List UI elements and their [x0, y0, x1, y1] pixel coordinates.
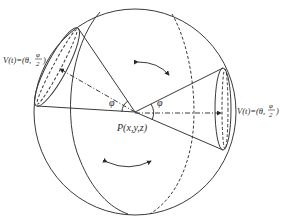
rotation-arrow-top — [138, 62, 169, 75]
svg-text:V(t)=(θ,: V(t)=(θ, — [237, 106, 265, 116]
svg-text:): ) — [42, 55, 46, 65]
angle-arc-right — [151, 104, 154, 120]
dashed-meridian — [150, 14, 194, 214]
point-p-label: P(x,y,z) — [116, 122, 148, 134]
left-cap-label: V(t)=(θ, φ 2 ) — [3, 51, 46, 68]
svg-text:2: 2 — [269, 111, 273, 119]
angle-label-left: φ — [109, 97, 115, 108]
svg-text:φ: φ — [269, 102, 273, 110]
sphere-diagram: φ φ P(x,y,z) V(t)=(θ, φ 2 ) V(t)=(θ, φ 2… — [0, 0, 282, 221]
svg-text:): ) — [275, 106, 279, 116]
rotation-arrow-bottom — [107, 161, 151, 167]
right-cone — [135, 68, 231, 150]
svg-text:φ: φ — [36, 51, 40, 59]
angle-label-right: φ — [157, 97, 163, 108]
svg-text:V(t)=(θ,: V(t)=(θ, — [3, 55, 31, 65]
svg-text:2: 2 — [36, 60, 40, 68]
right-cap-label: V(t)=(θ, φ 2 ) — [237, 102, 279, 119]
solid-meridian — [70, 12, 128, 214]
